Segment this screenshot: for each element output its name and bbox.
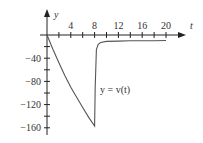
y-tick-label: −80 <box>25 76 41 87</box>
chart: y t 48121620 −40−80−120−160 y = v(t) <box>0 0 203 143</box>
x-tick-label: 20 <box>161 20 171 31</box>
y-axis-arrow-icon <box>44 9 50 17</box>
x-tick-label: 4 <box>68 20 73 31</box>
curve-label: y = v(t) <box>100 84 130 96</box>
x-axis-arrow-icon <box>178 32 186 38</box>
y-tick-label: −40 <box>25 53 41 64</box>
y-tick-label: −160 <box>20 122 41 133</box>
x-tick-label: 12 <box>113 20 123 31</box>
y-axis-label: y <box>53 9 59 20</box>
curve-v-of-t <box>47 35 166 126</box>
y-tick-label: −120 <box>20 99 41 110</box>
x-tick-label: 8 <box>92 20 97 31</box>
x-axis-label: t <box>190 20 193 31</box>
x-tick-label: 16 <box>137 20 147 31</box>
y-ticks: −40−80−120−160 <box>20 47 50 134</box>
